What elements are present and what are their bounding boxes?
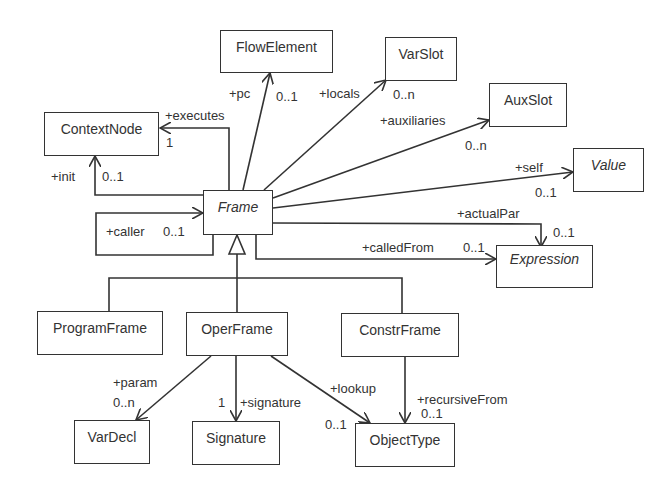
- role-executes: +executes: [165, 109, 225, 122]
- mult-actualPar: 0..1: [553, 226, 575, 239]
- mult-pc: 0..1: [276, 90, 298, 103]
- role-recursiveFrom: +recursiveFrom: [417, 393, 508, 406]
- class-signature: Signature: [192, 421, 280, 465]
- mult-auxiliaries: 0..n: [465, 139, 487, 152]
- mult-calledFrom: 0..1: [463, 241, 485, 254]
- role-auxiliaries: +auxiliaries: [380, 114, 445, 127]
- mult-caller: 0..1: [163, 225, 185, 238]
- role-self: +self: [515, 161, 543, 174]
- mult-executes: 1: [166, 136, 173, 149]
- class-expression: Expression: [496, 245, 593, 288]
- role-actualPar: +actualPar: [457, 207, 520, 220]
- role-calledFrom: +calledFrom: [362, 241, 434, 254]
- class-flowelement: FlowElement: [220, 30, 333, 73]
- mult-locals: 0..n: [393, 88, 415, 101]
- role-pc: +pc: [229, 87, 250, 100]
- class-varslot: VarSlot: [385, 37, 457, 81]
- class-objecttype: ObjectType: [355, 423, 455, 467]
- mult-self: 0..1: [535, 186, 557, 199]
- class-programframe: ProgramFrame: [37, 311, 163, 355]
- mult-param: 0..n: [113, 396, 135, 409]
- role-param: +param: [113, 376, 157, 389]
- mult-recursiveFrom: 0..1: [421, 407, 443, 420]
- class-constrframe: ConstrFrame: [341, 313, 459, 357]
- class-value: Value: [573, 148, 644, 192]
- class-operframe: OperFrame: [186, 312, 288, 356]
- generalization-triangle: [229, 235, 245, 254]
- mult-init: 0..1: [102, 170, 124, 183]
- class-vardecl: VarDecl: [74, 420, 150, 464]
- mult-lookup: 0..1: [325, 418, 347, 431]
- class-frame: Frame: [203, 190, 273, 235]
- mult-signature: 1: [218, 396, 225, 409]
- assoc-self: [273, 172, 573, 208]
- role-caller: +caller: [106, 225, 145, 238]
- role-signature: +signature: [240, 396, 301, 409]
- role-lookup: +lookup: [330, 382, 376, 395]
- class-auxslot: AuxSlot: [489, 83, 567, 127]
- role-locals: +locals: [319, 87, 360, 100]
- role-init: +init: [51, 170, 75, 183]
- class-contextnode: ContextNode: [44, 112, 159, 156]
